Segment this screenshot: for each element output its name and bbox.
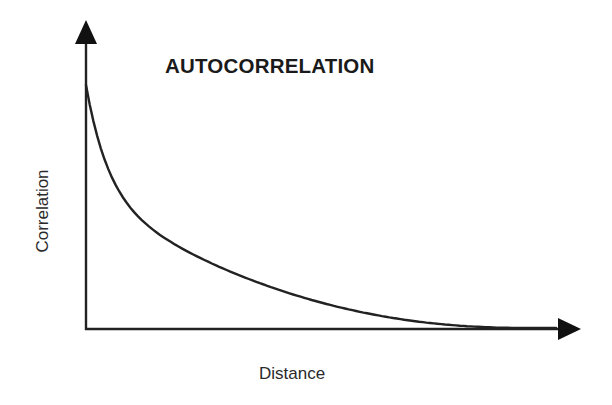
y-axis-arrow-icon: [75, 20, 97, 44]
autocorrelation-curve: [86, 85, 556, 328]
y-axis-label: Correlation: [33, 169, 53, 252]
chart-title: AUTOCORRELATION: [165, 54, 375, 78]
x-axis-label: Distance: [259, 364, 325, 384]
x-axis-arrow-icon: [558, 318, 581, 340]
